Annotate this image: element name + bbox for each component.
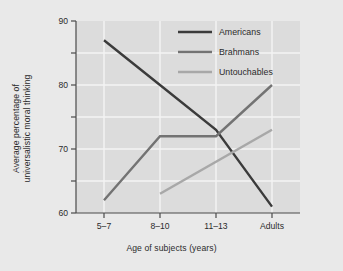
line-chart: 60708090 5–78–1011–13Adults AmericansBra… xyxy=(0,0,343,271)
y-axis-title: Average percentage of universalistic mor… xyxy=(11,39,32,219)
x-axis-tick-label: 11–13 xyxy=(204,221,227,231)
y-axis-title-line-1: Average percentage of xyxy=(11,39,22,219)
y-axis-title-line-2: universalistic moral thinking xyxy=(21,39,32,219)
x-axis-title: Age of subjects (years) xyxy=(0,243,343,253)
y-axis-tick-labels: 60708090 xyxy=(58,16,68,218)
y-axis-ticks xyxy=(71,21,76,213)
x-axis-tick-labels: 5–78–1011–13Adults xyxy=(97,221,284,231)
chart-figure: 60708090 5–78–1011–13Adults AmericansBra… xyxy=(0,0,343,271)
y-axis-tick-label: 60 xyxy=(58,208,68,218)
y-axis-tick-label: 70 xyxy=(58,144,68,154)
y-axis-tick-label: 80 xyxy=(58,80,68,90)
y-axis-tick-label: 90 xyxy=(58,16,68,26)
legend-label-brahmans: Brahmans xyxy=(219,47,260,57)
x-axis-tick-label: Adults xyxy=(260,221,284,231)
legend-label-americans: Americans xyxy=(219,27,261,37)
x-axis-ticks xyxy=(104,213,272,218)
x-axis-tick-label: 8–10 xyxy=(150,221,169,231)
legend-label-untouchables: Untouchables xyxy=(219,67,273,77)
x-axis-tick-label: 5–7 xyxy=(97,221,112,231)
